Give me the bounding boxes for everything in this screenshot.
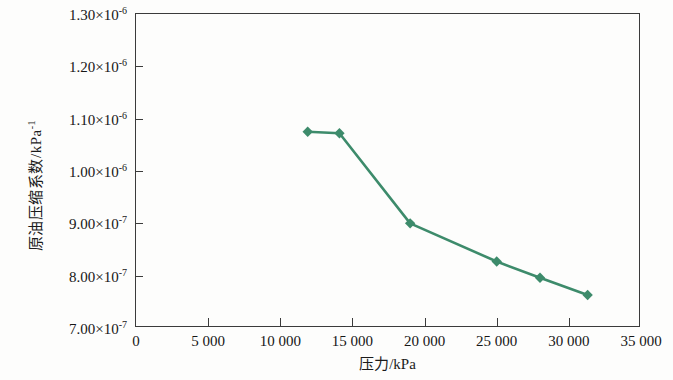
- plot-area: 7.00×10-78.00×10-79.00×10-71.00×10-61.10…: [135, 13, 640, 327]
- x-axis-tick-label: 20 000: [404, 333, 445, 350]
- x-axis-tick-label: 10 000: [260, 333, 301, 350]
- x-axis-tick-label: 35 000: [620, 333, 661, 350]
- data-point-marker: [535, 273, 545, 283]
- x-axis-tick-label: 5 000: [191, 333, 225, 350]
- y-axis-tick-label: 9.00×10-7: [69, 214, 127, 233]
- chart-figure: 原油压缩系数/kPa-1 压力/kPa 7.00×10-78.00×10-79.…: [0, 0, 673, 380]
- x-axis-tick-label: 30 000: [548, 333, 589, 350]
- x-axis-tick-label: 0: [132, 333, 140, 350]
- y-axis-tick-label: 1.30×10-6: [69, 5, 127, 24]
- y-axis-title-exponent: -1: [26, 120, 37, 129]
- x-axis-title: 压力/kPa: [135, 352, 640, 373]
- y-axis-tick-label: 7.00×10-7: [69, 319, 127, 338]
- data-point-marker: [582, 290, 592, 300]
- y-axis-tick-label: 1.20×10-6: [69, 57, 127, 76]
- y-axis-tick-label: 8.00×10-7: [69, 266, 127, 285]
- y-axis-tick-label: 1.10×10-6: [69, 109, 127, 128]
- y-axis-title: 原油压缩系数/kPa-1: [24, 56, 45, 316]
- data-series-layer: [136, 14, 641, 328]
- series-line: [308, 132, 588, 295]
- y-axis-title-text: 原油压缩系数/kPa: [28, 129, 44, 251]
- y-axis-tick-label: 1.00×10-6: [69, 162, 127, 181]
- x-axis-tick-label: 15 000: [332, 333, 373, 350]
- data-point-marker: [492, 256, 502, 266]
- x-axis-tick-label: 25 000: [476, 333, 517, 350]
- data-point-marker: [303, 127, 313, 137]
